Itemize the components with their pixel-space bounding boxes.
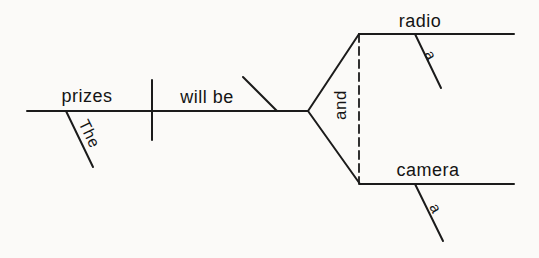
conjunction-word: and [331, 90, 351, 120]
predicate-word-camera: camera [396, 160, 459, 181]
predicate-separator [243, 77, 277, 111]
subject-word: prizes [61, 86, 112, 107]
predicate-word-radio: radio [399, 11, 442, 32]
sentence-diagram: prizes will be radio camera The a a and [0, 0, 539, 258]
verb-phrase: will be [180, 87, 234, 108]
fork-lower-branch [308, 111, 360, 184]
